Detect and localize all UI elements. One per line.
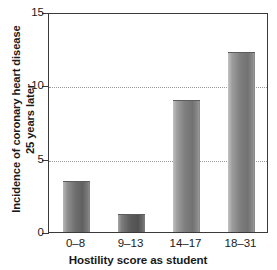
bar-18–31 (228, 52, 255, 232)
y-axis-title: Incidence of coronary heart disease 25 y… (10, 8, 40, 230)
y-tick-label-5: 5 (4, 154, 44, 166)
plot-area (48, 13, 268, 233)
bar-fill (173, 100, 200, 232)
x-axis-title: Hostility score as student (0, 253, 276, 266)
bar-fill (63, 181, 90, 232)
bar-14–17 (173, 100, 200, 232)
bar-fill (118, 214, 145, 232)
bar-chart: Incidence of coronary heart disease 25 y… (0, 0, 276, 270)
y-axis-title-line-1: Incidence of coronary heart disease (10, 8, 24, 230)
y-axis-title-line-2: 25 years later (24, 8, 38, 230)
bar-fill (228, 52, 255, 232)
y-tick-label-15: 15 (4, 7, 44, 19)
plot-inner (49, 14, 267, 232)
bar-0–8 (63, 181, 90, 232)
x-tick-label-18–31: 18–31 (201, 237, 277, 249)
y-tick-label-10: 10 (4, 80, 44, 92)
bar-9–13 (118, 214, 145, 232)
